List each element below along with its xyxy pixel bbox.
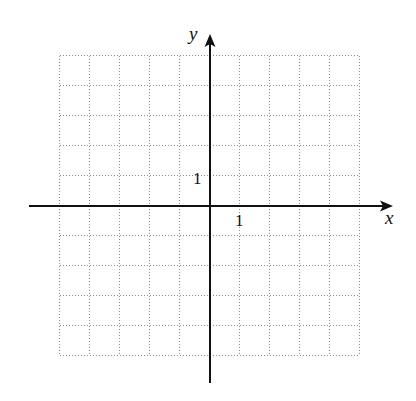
coordinate-plane: x y 1 1: [0, 0, 416, 401]
y-tick-label: 1: [193, 169, 202, 188]
y-axis-label: y: [187, 23, 198, 44]
x-tick-label: 1: [235, 211, 244, 230]
x-axis-label: x: [384, 207, 394, 228]
